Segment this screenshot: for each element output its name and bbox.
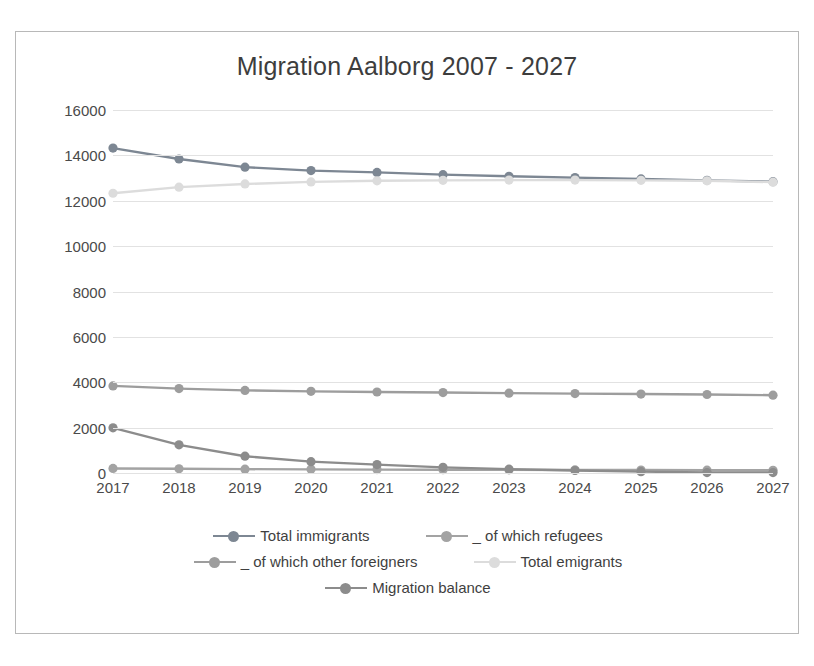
legend-label: Migration balance: [372, 579, 490, 596]
gridline: [113, 246, 773, 247]
series-data-point: [636, 467, 645, 476]
series-data-point: [174, 440, 183, 449]
y-axis-tick-label: 4000: [73, 374, 106, 391]
x-axis-tick-label: 2018: [162, 479, 195, 496]
x-axis: 2017201820192020202120222023202420252026…: [113, 479, 773, 503]
legend-marker-icon: [194, 556, 236, 568]
series-data-point: [768, 178, 777, 187]
y-axis-tick-label: 16000: [64, 102, 106, 119]
gridline: [113, 292, 773, 293]
legend-item[interactable]: _ of which other foreigners: [194, 553, 418, 570]
x-axis-tick-label: 2027: [756, 479, 789, 496]
x-axis-tick-label: 2024: [558, 479, 591, 496]
series-data-point: [240, 452, 249, 461]
series-data-point: [174, 384, 183, 393]
legend-row: Migration balance: [16, 579, 800, 596]
y-axis: 0200040006000800010000120001400016000: [38, 110, 106, 473]
x-axis-tick-label: 2020: [294, 479, 327, 496]
legend-marker-icon: [213, 530, 255, 542]
series-data-point: [174, 183, 183, 192]
legend-item[interactable]: _ of which refugees: [426, 527, 603, 544]
chart-container: Migration Aalborg 2007 - 2027 0200040006…: [15, 31, 799, 634]
legend-label: _ of which refugees: [473, 527, 603, 544]
gridline: [113, 428, 773, 429]
x-axis-tick-label: 2023: [492, 479, 525, 496]
legend-row: _ of which other foreignersTotal emigran…: [16, 553, 800, 570]
series-data-point: [570, 176, 579, 185]
y-axis-tick-label: 8000: [73, 283, 106, 300]
x-axis-tick-label: 2021: [360, 479, 393, 496]
x-axis-tick-label: 2017: [96, 479, 129, 496]
y-axis-tick-label: 12000: [64, 192, 106, 209]
series-data-point: [108, 144, 117, 153]
chart-title: Migration Aalborg 2007 - 2027: [16, 52, 798, 81]
y-axis-tick-label: 10000: [64, 238, 106, 255]
legend-marker-icon: [474, 556, 516, 568]
legend-label: Total immigrants: [260, 527, 369, 544]
gridline: [113, 473, 773, 474]
series-data-point: [240, 386, 249, 395]
series-data-point: [636, 176, 645, 185]
series-data-point: [240, 163, 249, 172]
legend-item[interactable]: Total immigrants: [213, 527, 369, 544]
chart-legend: Total immigrants_ of which refugees_ of …: [16, 527, 800, 605]
series-data-point: [372, 460, 381, 469]
gridline: [113, 201, 773, 202]
gridline: [113, 155, 773, 156]
plot-area: [113, 110, 773, 473]
series-data-point: [372, 168, 381, 177]
y-axis-tick-label: 14000: [64, 147, 106, 164]
series-data-point: [570, 389, 579, 398]
series-data-point: [438, 463, 447, 472]
gridline: [113, 110, 773, 111]
y-axis-tick-label: 6000: [73, 328, 106, 345]
series-data-point: [636, 389, 645, 398]
gridline: [113, 382, 773, 383]
series-data-point: [702, 390, 711, 399]
series-data-point: [108, 189, 117, 198]
series-data-point: [240, 179, 249, 188]
legend-item[interactable]: Total emigrants: [474, 553, 623, 570]
legend-marker-icon: [426, 530, 468, 542]
legend-label: Total emigrants: [521, 553, 623, 570]
series-data-point: [306, 387, 315, 396]
series-data-point: [768, 391, 777, 400]
x-axis-tick-label: 2026: [690, 479, 723, 496]
series-data-point: [504, 389, 513, 398]
legend-label: _ of which other foreigners: [241, 553, 418, 570]
x-axis-tick-label: 2025: [624, 479, 657, 496]
gridline: [113, 337, 773, 338]
x-axis-tick-label: 2019: [228, 479, 261, 496]
chart-series: [108, 381, 777, 400]
series-data-point: [702, 176, 711, 185]
series-data-point: [372, 176, 381, 185]
series-data-point: [306, 457, 315, 466]
y-axis-tick-label: 2000: [73, 419, 106, 436]
legend-item[interactable]: Migration balance: [325, 579, 490, 596]
legend-marker-icon: [325, 582, 367, 594]
series-data-point: [438, 176, 447, 185]
legend-row: Total immigrants_ of which refugees: [16, 527, 800, 544]
series-data-point: [306, 166, 315, 175]
series-data-point: [108, 464, 117, 473]
series-data-point: [306, 177, 315, 186]
series-data-point: [504, 176, 513, 185]
series-data-point: [372, 387, 381, 396]
x-axis-tick-label: 2022: [426, 479, 459, 496]
series-data-point: [438, 388, 447, 397]
